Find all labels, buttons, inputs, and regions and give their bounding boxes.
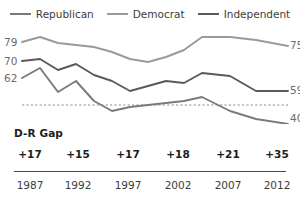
gap-value-1987: +17 — [18, 149, 41, 160]
legend-item-republican: Republican — [10, 9, 94, 20]
x-axis-label-2007: 2007 — [215, 180, 242, 191]
x-axis-labels: 1987 1992 1997 2002 2007 2012 — [0, 180, 300, 194]
chart-legend: Republican Democrat Independent — [0, 4, 300, 24]
gap-value-2007: +21 — [216, 149, 239, 160]
end-label-republican: 40 — [290, 113, 300, 124]
end-label-democrat: 75 — [290, 40, 300, 51]
x-axis-label-1992: 1992 — [65, 180, 92, 191]
legend-swatch-independent-icon — [198, 13, 219, 15]
line-chart-svg — [0, 26, 300, 124]
x-axis-label-2002: 2002 — [165, 180, 192, 191]
legend-swatch-republican-icon — [10, 13, 31, 15]
series-line-independent — [22, 59, 288, 91]
start-label-independent: 62 — [4, 73, 17, 84]
gap-value-2002: +18 — [166, 149, 189, 160]
legend-label-democrat: Democrat — [133, 9, 185, 20]
gap-value-1997: +17 — [116, 149, 139, 160]
x-axis-label-2012: 2012 — [264, 180, 291, 191]
legend-swatch-democrat-icon — [107, 13, 128, 15]
end-label-independent: 59 — [290, 85, 300, 96]
start-label-democrat: 79 — [4, 37, 17, 48]
start-label-republican: 70 — [4, 56, 17, 67]
legend-item-democrat: Democrat — [107, 9, 185, 20]
gap-values-row: +17 +15 +17 +18 +21 +35 — [0, 149, 300, 163]
plot-area: 79 70 62 75 59 40 — [0, 26, 300, 124]
gap-value-1992: +15 — [66, 149, 89, 160]
legend-label-independent: Independent — [224, 9, 291, 20]
legend-label-republican: Republican — [36, 9, 94, 20]
legend-item-independent: Independent — [198, 9, 291, 20]
chart-root: Republican Democrat Independent 79 70 62… — [0, 0, 300, 204]
gap-section-title: D-R Gap — [14, 128, 63, 139]
series-line-democrat — [22, 37, 288, 62]
series-line-republican — [22, 68, 288, 124]
x-axis-label-1997: 1997 — [115, 180, 142, 191]
x-axis-label-1987: 1987 — [17, 180, 44, 191]
x-axis-rule — [14, 171, 286, 172]
gap-value-2012: +35 — [265, 149, 288, 160]
